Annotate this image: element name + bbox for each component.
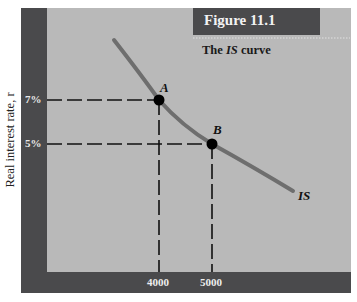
point-a-label: A <box>160 80 169 96</box>
point-b-label: B <box>213 122 222 138</box>
subtitle-italic: IS <box>226 43 238 57</box>
y-tick-7: 7% <box>25 93 42 105</box>
point-b-marker <box>207 139 218 150</box>
chart-svg <box>0 0 357 302</box>
y-tick-5: 5% <box>25 137 42 149</box>
subtitle-prefix: The <box>202 43 226 57</box>
is-curve <box>114 40 293 191</box>
point-a-marker <box>154 95 165 106</box>
subtitle-suffix: curve <box>238 43 271 57</box>
x-tick-4000: 4000 <box>147 276 169 288</box>
figure-subtitle: The IS curve <box>202 43 271 58</box>
is-curve-label: IS <box>298 188 310 204</box>
x-tick-5000: 5000 <box>200 276 222 288</box>
